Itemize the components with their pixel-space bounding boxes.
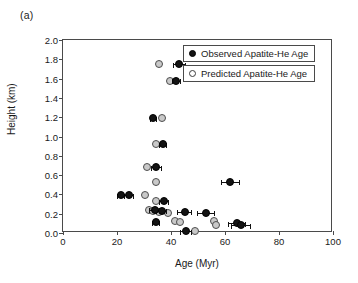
plot-area: 0.00.20.40.60.81.01.21.41.61.82.0 020406… (62, 39, 332, 232)
x-tick (279, 231, 280, 235)
panel-label: (a) (20, 9, 33, 21)
data-point-observed (182, 227, 190, 235)
y-tick (59, 40, 63, 41)
x-tick-label: 20 (112, 236, 123, 247)
legend-item-predicted: Predicted Apatite-He Age (183, 65, 315, 82)
y-tick-label: 2.0 (45, 35, 58, 46)
y-tick (59, 117, 63, 118)
chart-legend: Observed Apatite-He AgePredicted Apatite… (183, 45, 315, 82)
y-tick (59, 194, 63, 195)
data-point-observed (181, 208, 189, 216)
data-point-observed (175, 60, 183, 68)
y-tick-label: 0.2 (45, 208, 58, 219)
x-tick-label: 80 (274, 236, 285, 247)
y-tick (59, 79, 63, 80)
data-point-observed (237, 221, 245, 229)
y-tick-label: 1.8 (45, 54, 58, 65)
y-tick-label: 0.8 (45, 150, 58, 161)
y-tick (59, 214, 63, 215)
y-tick (59, 137, 63, 138)
data-point-predicted (176, 218, 184, 226)
figure-panel: (a) Height (km) Age (Myr) 0.00.20.40.60.… (0, 0, 358, 283)
y-tick-label: 0.0 (45, 228, 58, 239)
x-tick-label: 60 (220, 236, 231, 247)
x-tick (117, 231, 118, 235)
y-axis-title: Height (km) (6, 83, 17, 135)
x-tick-label: 100 (325, 236, 341, 247)
data-point-observed (125, 191, 133, 199)
data-point-observed (160, 197, 168, 205)
filled-circle-icon (189, 50, 196, 57)
data-point-predicted (141, 191, 149, 199)
data-point-predicted (155, 60, 163, 68)
x-axis-title: Age (Myr) (62, 258, 332, 269)
y-tick (59, 156, 63, 157)
data-point-observed (202, 209, 210, 217)
legend-label: Predicted Apatite-He Age (201, 68, 307, 79)
x-tick (333, 231, 334, 235)
y-tick-label: 1.0 (45, 131, 58, 142)
y-tick (59, 98, 63, 99)
data-point-predicted (152, 178, 160, 186)
data-point-observed (158, 207, 166, 215)
y-tick-label: 0.6 (45, 170, 58, 181)
data-point-predicted (191, 227, 199, 235)
y-tick-label: 0.4 (45, 189, 58, 200)
x-tick-label: 40 (166, 236, 177, 247)
data-point-predicted (158, 114, 166, 122)
y-tick-label: 1.6 (45, 73, 58, 84)
y-tick-label: 1.2 (45, 112, 58, 123)
y-tick (59, 175, 63, 176)
legend-item-observed: Observed Apatite-He Age (183, 45, 315, 62)
x-tick (63, 231, 64, 235)
data-point-predicted (143, 163, 151, 171)
y-tick-label: 1.4 (45, 92, 58, 103)
x-tick (225, 231, 226, 235)
open-circle-icon (189, 70, 196, 77)
legend-label: Observed Apatite-He Age (201, 48, 308, 59)
data-point-observed (152, 163, 160, 171)
data-point-observed (226, 178, 234, 186)
x-tick-label: 0 (60, 236, 65, 247)
data-point-predicted (212, 221, 220, 229)
x-tick (171, 231, 172, 235)
y-tick (59, 59, 63, 60)
data-point-observed (172, 77, 180, 85)
